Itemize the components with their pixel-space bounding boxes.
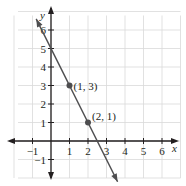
y-tick-label: 2 [41,98,47,110]
x-axis-label: x [171,142,177,154]
x-tick-label: 5 [141,145,147,157]
x-axis-arrow-left-icon [7,138,15,144]
y-tick-label: −1 [34,154,46,166]
y-axis-arrow-up-icon [48,6,54,14]
y-axis-arrow-down-icon [48,172,54,180]
data-point [67,83,73,89]
y-tick-label: 3 [41,80,47,92]
tick-marks: −1123456−1123456 [27,24,166,166]
data-point [85,120,91,126]
coordinate-plane: −1123456−1123456 (1, 3)(2, 1) x y [0,0,186,186]
data-points: (1, 3)(2, 1) [67,80,117,126]
x-tick-label: 2 [85,145,91,157]
line-y-eq-neg2x-plus-5 [36,19,117,182]
x-tick-label: 6 [159,145,165,157]
x-tick-label: 1 [67,145,73,157]
line-arrow-down-icon [111,173,117,181]
graph-line [36,19,117,182]
y-axis-label: y [39,9,45,21]
point-label: (1, 3) [74,80,98,93]
y-tick-label: 1 [41,117,47,129]
point-label: (2, 1) [92,110,116,123]
y-tick-label: 5 [41,43,47,55]
y-tick-label: 4 [41,61,47,73]
x-tick-label: 4 [122,145,128,157]
